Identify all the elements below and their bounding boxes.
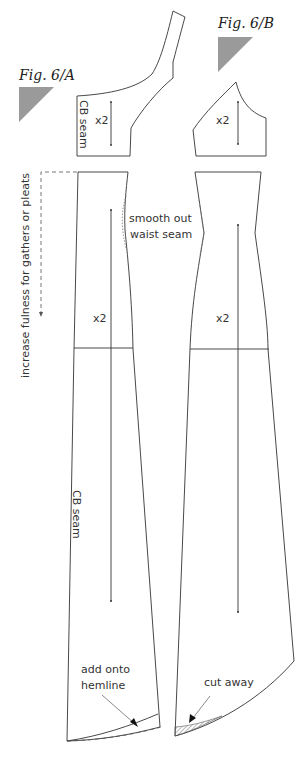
smooth-out-label-line1: smooth out bbox=[129, 212, 192, 225]
pattern-diagram: Fig. 6/A Fig. 6/B x2 CB seam x2 increase… bbox=[0, 0, 306, 763]
cut-away-region bbox=[175, 716, 222, 736]
fig-b-title: Fig. 6/B bbox=[217, 15, 274, 31]
piece-a-bodice bbox=[77, 11, 185, 156]
fig-a-triangle-icon bbox=[19, 87, 54, 122]
piece-a-skirt bbox=[67, 172, 160, 741]
add-onto-label-line1: add onto bbox=[81, 663, 130, 676]
cb-seam-label-skirt: CB seam bbox=[70, 490, 83, 539]
fulness-extension-dashed bbox=[41, 172, 77, 316]
piece-b-skirt bbox=[175, 172, 294, 736]
increase-fulness-label: increase fulness for gathers or pleats bbox=[19, 173, 32, 378]
cut-away-leader bbox=[193, 696, 210, 718]
x2-label-a-skirt: x2 bbox=[93, 312, 107, 325]
x2-label-a-top: x2 bbox=[95, 114, 109, 127]
cut-away-label: cut away bbox=[204, 676, 254, 689]
x2-label-b-top: x2 bbox=[216, 114, 230, 127]
smooth-out-label-line2: waist seam bbox=[130, 228, 192, 241]
add-onto-label-line2: hemline bbox=[81, 679, 126, 692]
fig-b-triangle-icon bbox=[218, 37, 253, 72]
x2-label-b-skirt: x2 bbox=[216, 312, 230, 325]
cb-seam-label-top: CB seam bbox=[77, 100, 90, 149]
fig-a-title: Fig. 6/A bbox=[18, 67, 75, 83]
arrow-down-icon bbox=[39, 312, 43, 317]
add-onto-leader bbox=[102, 695, 135, 724]
